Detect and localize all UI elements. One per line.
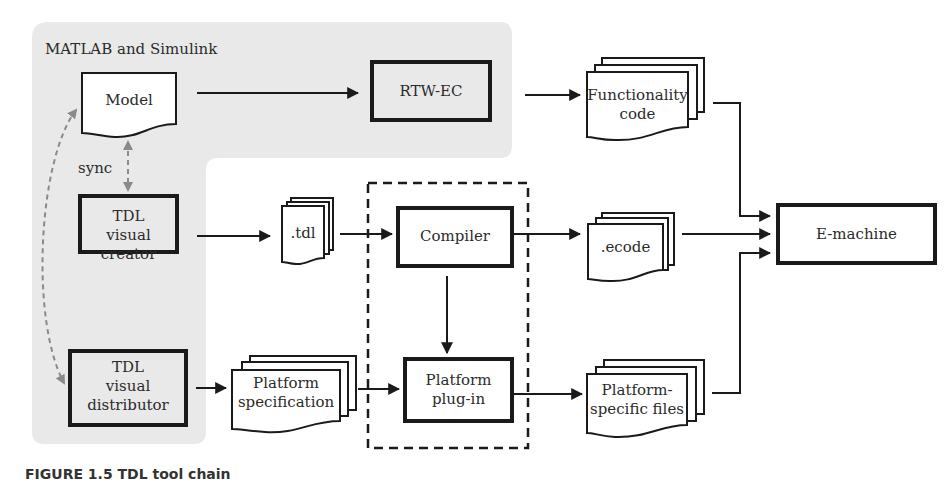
platformspec-line-1: Platform xyxy=(232,374,340,393)
model-label: Model xyxy=(82,91,176,110)
platformspec-line-2: specification xyxy=(232,393,340,412)
compiler-label: Compiler xyxy=(398,227,512,246)
ecode-label: .ecode xyxy=(588,238,663,257)
platformfiles-line-2: specific files xyxy=(587,400,687,419)
tdl-file-label: .tdl xyxy=(282,224,324,243)
figure-caption: FIGURE 1.5 TDL tool chain xyxy=(25,466,231,482)
functionality-line-1: Functionality xyxy=(587,86,688,105)
distributor-line-2: visual xyxy=(70,377,186,396)
creator-line-3: creator xyxy=(80,245,177,264)
sync-label: sync xyxy=(78,159,112,177)
functionality-code-label: Functionality code xyxy=(587,86,688,124)
e-machine-label: E-machine xyxy=(778,225,935,244)
platform-plugin-label: Platform plug-in xyxy=(405,371,512,409)
distributor-line-1: TDL xyxy=(70,358,186,377)
group-title: MATLAB and Simulink xyxy=(45,40,217,58)
plugin-line-1: Platform xyxy=(405,371,512,390)
functionality-line-2: code xyxy=(587,105,688,124)
platformfiles-line-1: Platform- xyxy=(587,381,687,400)
arrow-platformfiles-to-emachine xyxy=(712,253,770,393)
platform-specification-label: Platform specification xyxy=(232,374,340,412)
arrow-functionality-to-emachine xyxy=(713,103,770,216)
platform-specific-files-label: Platform- specific files xyxy=(587,381,687,419)
plugin-line-2: plug-in xyxy=(405,390,512,409)
creator-line-1: TDL xyxy=(80,207,177,226)
tdl-visual-distributor-label: TDL visual distributor xyxy=(70,358,186,415)
tdl-visual-creator-label: TDL visual creator xyxy=(80,207,177,264)
distributor-line-3: distributor xyxy=(70,396,186,415)
rtw-ec-label: RTW-EC xyxy=(372,82,490,101)
creator-line-2: visual xyxy=(80,226,177,245)
